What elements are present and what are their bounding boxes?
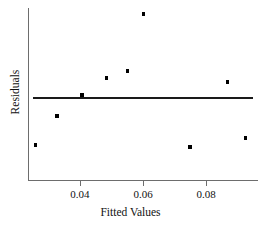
data-point	[105, 76, 108, 79]
data-point	[142, 12, 145, 15]
data-point	[126, 69, 129, 72]
residual-plot: 0.040.060.08 Fitted Values Residuals	[0, 0, 261, 227]
data-point	[188, 145, 191, 148]
data-point	[226, 80, 229, 83]
x-axis-title: Fitted Values	[0, 205, 261, 219]
y-axis-title: Residuals	[8, 42, 22, 142]
data-point-series	[0, 0, 261, 227]
data-point	[55, 114, 58, 117]
zero-reference-line	[33, 97, 253, 99]
data-point	[34, 143, 37, 146]
data-point	[244, 136, 247, 139]
data-point	[80, 93, 83, 96]
